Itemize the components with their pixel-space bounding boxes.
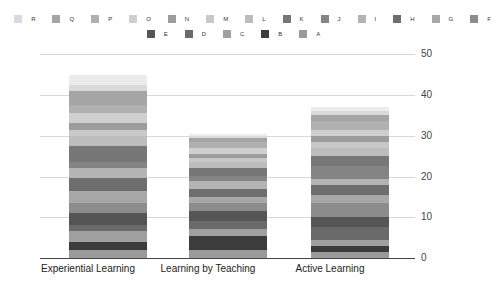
bar-segment-l[interactable] [311,148,389,156]
bar-experiential-learning[interactable] [69,74,147,258]
bar-segment-o[interactable] [69,113,147,123]
bar-segment-k[interactable] [311,156,389,166]
bar-segment-h[interactable] [189,189,267,197]
bar-segment-a[interactable] [189,250,267,258]
legend-item-f[interactable]: F [470,15,496,23]
bar-segment-b[interactable] [69,242,147,250]
bar-segment-l[interactable] [69,136,147,146]
bar-segment-k[interactable] [69,146,147,162]
bar-segment-c[interactable] [69,231,147,241]
x-axis-line [40,258,415,259]
bar-segment-k[interactable] [189,168,267,176]
y-tick-label: 20 [421,171,432,182]
bar-segment-s[interactable] [69,75,147,85]
bar-segment-a[interactable] [311,252,389,258]
bar-segment-f[interactable] [189,203,267,211]
bar-segment-f[interactable] [311,203,389,217]
bar-segment-p[interactable] [69,105,147,113]
legend-swatch [470,15,478,23]
bar-segment-d[interactable] [311,227,389,239]
plot-area: 50 40 30 20 10 0 Experiential Learning L… [40,0,415,288]
bar-segment-h[interactable] [311,185,389,195]
bar-segment-q[interactable] [69,91,147,105]
legend-label: R [31,16,35,22]
y-tick-label: 50 [421,48,432,59]
legend-label: G [449,16,454,22]
bar-segment-a[interactable] [69,250,147,258]
legend-item-r[interactable]: R [14,15,40,23]
legend-swatch [14,15,22,23]
bar-segment-j[interactable] [311,166,389,178]
bar-segment-d[interactable] [189,221,267,229]
bar-segment-e[interactable] [69,213,147,225]
bar-segment-f[interactable] [69,203,147,213]
y-tick-label: 40 [421,89,432,100]
y-tick-label: 0 [421,252,427,263]
x-label-active-learning: Active Learning [270,263,390,274]
bar-segment-g[interactable] [311,195,389,203]
bar-segment-b[interactable] [189,236,267,250]
bar-segment-i[interactable] [69,168,147,178]
bar-segment-e[interactable] [311,217,389,227]
legend-swatch [432,15,440,23]
x-label-experiential-learning: Experiential Learning [28,263,148,274]
bar-active-learning[interactable] [311,107,389,258]
gridline-50 [40,54,415,55]
y-tick-label: 30 [421,130,432,141]
legend-item-g[interactable]: G [432,15,459,23]
bar-segment-i[interactable] [189,181,267,189]
legend-label: F [487,16,491,22]
bar-segment-g[interactable] [69,191,147,203]
bar-segment-h[interactable] [69,178,147,190]
bar-segment-p[interactable] [311,121,389,129]
bar-learning-by-teaching[interactable] [189,134,267,258]
y-tick-label: 10 [421,211,432,222]
legend-item-s[interactable]: S [0,15,2,23]
x-label-learning-by-teaching: Learning by Teaching [148,263,268,274]
bar-segment-e[interactable] [189,211,267,221]
